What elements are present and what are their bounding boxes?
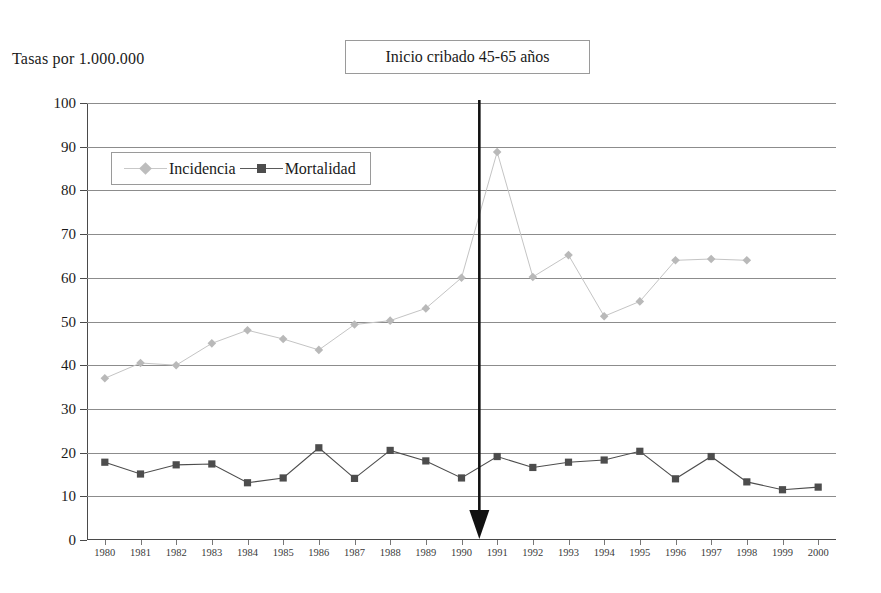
y-axis-tick	[80, 234, 87, 235]
x-axis-tick-label: 2000	[808, 547, 829, 558]
y-axis-tick-label: 50	[61, 313, 76, 330]
x-axis-tick	[426, 540, 427, 545]
x-axis-tick-label: 1998	[736, 547, 757, 558]
x-axis-tick	[319, 540, 320, 545]
y-axis-tick	[80, 540, 87, 541]
x-axis-tick-label: 1996	[665, 547, 686, 558]
legend-line-incidencia-right	[150, 168, 167, 169]
x-axis-tick	[676, 540, 677, 545]
y-axis-tick-label: 0	[69, 532, 77, 549]
x-axis-tick	[569, 540, 570, 545]
x-axis-tick	[283, 540, 284, 545]
x-axis-tick-label: 1984	[237, 547, 258, 558]
annotation-arrow-head	[469, 510, 489, 539]
x-axis-tick-label: 1994	[594, 547, 615, 558]
y-axis-tick-label: 40	[61, 357, 76, 374]
y-axis-tick-label: 70	[61, 226, 76, 243]
x-axis-tick	[390, 540, 391, 545]
y-axis-tick-label: 100	[54, 95, 77, 112]
y-axis-tick	[80, 322, 87, 323]
legend-line-mortalidad	[240, 168, 257, 169]
x-axis-tick-label: 1997	[701, 547, 722, 558]
y-axis-tick-label: 80	[61, 182, 76, 199]
x-axis-line	[87, 539, 836, 540]
x-axis-tick-label: 1999	[772, 547, 793, 558]
x-axis-tick-label: 1981	[130, 547, 151, 558]
x-axis-tick	[747, 540, 748, 545]
y-axis-tick-label: 60	[61, 269, 76, 286]
x-axis-tick-label: 1993	[558, 547, 579, 558]
x-axis-tick-label: 1983	[201, 547, 222, 558]
x-axis-tick-label: 1988	[380, 547, 401, 558]
x-axis-tick	[604, 540, 605, 545]
x-axis-tick-label: 1991	[487, 547, 508, 558]
y-axis-tick-label: 10	[61, 488, 76, 505]
y-axis-tick	[80, 103, 87, 104]
x-axis-tick	[711, 540, 712, 545]
legend-item-incidencia: Incidencia	[124, 160, 238, 178]
x-axis-tick	[640, 540, 641, 545]
y-axis-tick	[80, 496, 87, 497]
y-axis-tick	[80, 278, 87, 279]
y-axis-tick	[80, 190, 87, 191]
x-axis-tick	[176, 540, 177, 545]
x-axis-tick	[462, 540, 463, 545]
x-axis-tick-label: 1980	[94, 547, 115, 558]
legend-label-incidencia: Incidencia	[167, 160, 238, 178]
x-axis-tick	[248, 540, 249, 545]
x-axis-tick-label: 1987	[344, 547, 365, 558]
legend-item-mortalidad: Mortalidad	[240, 160, 358, 178]
x-axis-tick	[141, 540, 142, 545]
x-axis-tick	[497, 540, 498, 545]
chart-legend: Incidencia Mortalidad	[111, 152, 371, 185]
chart-root: Tasas por 1.000.000 Inicio cribado 45-65…	[0, 0, 881, 593]
y-axis-tick-label: 30	[61, 400, 76, 417]
y-axis-tick	[80, 409, 87, 410]
x-axis-tick	[212, 540, 213, 545]
legend-line-mortalidad-right	[266, 168, 283, 169]
y-axis-tick	[80, 365, 87, 366]
x-axis-tick	[533, 540, 534, 545]
x-axis-tick-label: 1985	[273, 547, 294, 558]
x-axis-tick-label: 1992	[522, 547, 543, 558]
x-axis-tick-label: 1989	[415, 547, 436, 558]
legend-label-mortalidad: Mortalidad	[283, 160, 358, 178]
diamond-marker-icon	[139, 162, 152, 175]
annotation-label-box: Inicio cribado 45-65 años	[345, 40, 590, 74]
x-axis-tick	[105, 540, 106, 545]
x-axis-tick	[818, 540, 819, 545]
x-axis-tick	[783, 540, 784, 545]
x-axis-tick-label: 1995	[629, 547, 650, 558]
y-axis-tick	[80, 147, 87, 148]
y-axis-tick	[80, 453, 87, 454]
y-axis-tick-label: 20	[61, 444, 76, 461]
y-axis-caption: Tasas por 1.000.000	[12, 50, 144, 68]
x-axis-tick	[355, 540, 356, 545]
x-axis-tick-label: 1986	[308, 547, 329, 558]
x-axis-tick-label: 1982	[166, 547, 187, 558]
annotation-label-text: Inicio cribado 45-65 años	[386, 48, 550, 66]
x-axis-tick-label: 1990	[451, 547, 472, 558]
square-marker-icon	[257, 164, 266, 173]
y-axis-tick-label: 90	[61, 138, 76, 155]
